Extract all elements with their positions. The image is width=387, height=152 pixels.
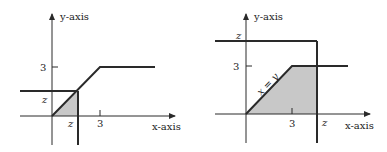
right-panel: y-axis x-axis z 3 3 z x = y [215, 11, 374, 143]
y-tick-label-z: z [235, 30, 242, 41]
x-tick-label-3: 3 [289, 118, 295, 129]
x-tick-label-z: z [67, 118, 74, 129]
x-axis-label: x-axis [345, 120, 374, 131]
diagram-canvas: y-axis x-axis 3 z z 3 y-axis x-axis z 3 … [0, 0, 387, 152]
x-tick-label-z: z [321, 117, 328, 128]
left-panel: y-axis x-axis 3 z z 3 [20, 11, 181, 145]
x-tick-label-3: 3 [97, 118, 103, 129]
y-axis-label: y-axis [253, 11, 283, 22]
x-axis-label: x-axis [152, 121, 181, 132]
y-tick-label-3: 3 [233, 61, 239, 72]
y-tick-label-z: z [41, 94, 48, 105]
y-axis-label: y-axis [59, 11, 89, 22]
y-tick-label-3: 3 [40, 62, 46, 73]
